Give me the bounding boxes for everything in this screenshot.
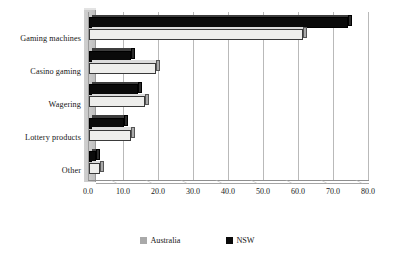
legend-item-nsw[interactable]: NSW: [226, 236, 254, 245]
bar-australia-gaming-machines[interactable]: [89, 29, 303, 40]
bar-side-face: [96, 149, 100, 160]
legend-label-australia: Australia: [150, 236, 180, 245]
x-tick-label-50.0: 50.0: [250, 187, 276, 196]
x-tick-label-60.0: 60.0: [285, 187, 311, 196]
gridline-80.0: [368, 12, 369, 180]
x-tick-label-40.0: 40.0: [215, 187, 241, 196]
bar-side-face: [131, 127, 135, 138]
bar-side-face: [145, 94, 149, 105]
x-tick-label-70.0: 70.0: [320, 187, 346, 196]
category-label-2: Wagering: [49, 100, 81, 109]
bar-front-face: [89, 163, 100, 174]
bar-australia-lottery-products[interactable]: [89, 130, 131, 141]
plot-area: [88, 12, 368, 180]
category-label-3: Lottery products: [25, 133, 81, 142]
bar-australia-wagering[interactable]: [89, 96, 145, 107]
category-label-1: Casino gaming: [30, 67, 81, 76]
bar-side-face: [124, 115, 128, 126]
bar-side-face: [100, 161, 104, 172]
bar-side-face: [131, 48, 135, 59]
bar-front-face: [89, 63, 156, 74]
bar-australia-casino-gaming[interactable]: [89, 63, 156, 74]
bar-side-face: [156, 60, 160, 71]
bar-side-face: [348, 15, 352, 26]
gridline-70.0: [333, 12, 334, 180]
bar-australia-other[interactable]: [89, 163, 100, 174]
bar-front-face: [89, 130, 131, 141]
x-tick-label-0.0: 0.0: [75, 187, 101, 196]
bar-side-face: [138, 82, 142, 93]
x-tick-label-10.0: 10.0: [110, 187, 136, 196]
category-axis-labels: Gaming machines Casino gaming Wagering L…: [0, 14, 83, 180]
bar-front-face: [89, 96, 145, 107]
x-tick-label-20.0: 20.0: [145, 187, 171, 196]
category-label-0: Gaming machines: [20, 34, 81, 43]
category-label-4: Other: [62, 166, 81, 175]
legend-item-australia[interactable]: Australia: [140, 236, 180, 245]
bar-front-face: [89, 29, 303, 40]
legend-swatch-australia: [140, 237, 147, 244]
bar-chart: Gaming machines Casino gaming Wagering L…: [0, 0, 395, 259]
bar-side-face: [303, 27, 307, 38]
x-tick-label-30.0: 30.0: [180, 187, 206, 196]
chart-legend: Australia NSW: [0, 232, 395, 248]
x-tick-label-80.0: 80.0: [355, 187, 381, 196]
legend-swatch-nsw: [226, 237, 233, 244]
legend-label-nsw: NSW: [236, 236, 254, 245]
